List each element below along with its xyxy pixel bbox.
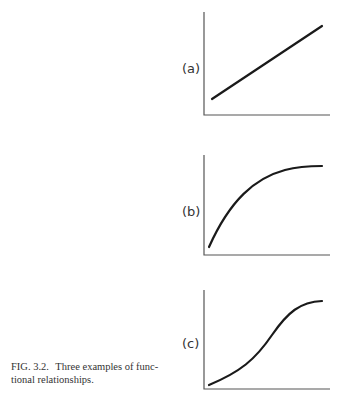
panel-a: (a) xyxy=(182,12,330,115)
panel-c-axes xyxy=(204,290,330,389)
panel-b-axes xyxy=(204,155,330,255)
panel-b-curve xyxy=(209,166,322,247)
panel-c: (c) xyxy=(182,290,330,389)
figure-graphics: (a) (b) (c) xyxy=(0,0,343,402)
caption-line-1: Three examples of func- xyxy=(55,361,158,372)
figure-caption: FIG. 3.2. Three examples of func- tional… xyxy=(11,361,171,386)
caption-figure-number: FIG. 3.2. xyxy=(11,361,49,372)
panel-b-label: (b) xyxy=(182,204,200,219)
panel-c-curve xyxy=(209,301,322,385)
figure: (a) (b) (c) FIG. 3.2. Three examples of … xyxy=(0,0,343,402)
caption-line-2: tional relationships. xyxy=(11,374,94,385)
panel-a-label: (a) xyxy=(182,61,200,76)
panel-b: (b) xyxy=(182,155,330,255)
panel-a-curve xyxy=(212,26,322,99)
panel-c-label: (c) xyxy=(182,336,199,351)
